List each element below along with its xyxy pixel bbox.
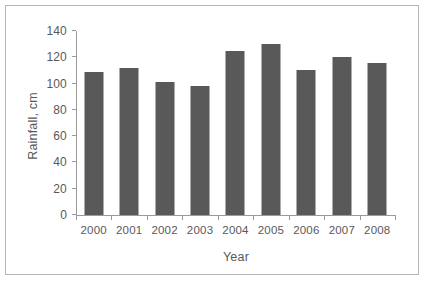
bar-slot — [76, 31, 111, 215]
bar-slot — [360, 31, 395, 215]
x-axis-line — [76, 215, 396, 216]
y-tick-label: 40 — [53, 153, 67, 171]
bar-slot — [182, 31, 217, 215]
x-tick-mark — [324, 216, 325, 220]
chart-frame: 020406080100120140 200020012002200320042… — [5, 5, 419, 275]
x-tick-label: 2004 — [218, 222, 253, 239]
bar-slot — [253, 31, 288, 215]
bar[interactable] — [297, 70, 316, 215]
bar-series — [76, 31, 395, 215]
bar[interactable] — [155, 82, 174, 215]
bar[interactable] — [226, 51, 245, 215]
bar[interactable] — [84, 72, 103, 215]
bar-slot — [218, 31, 253, 215]
x-tick-mark — [253, 216, 254, 220]
x-tick-label: 2008 — [360, 222, 395, 239]
bar-slot — [147, 31, 182, 215]
y-tick-label: 140 — [46, 22, 67, 40]
x-tick-mark — [182, 216, 183, 220]
y-axis-title-label: Rainfall, cm — [26, 92, 40, 160]
x-tick-mark — [395, 216, 396, 220]
bar[interactable] — [332, 57, 351, 215]
x-tick-mark — [289, 216, 290, 220]
x-tick-label: 2002 — [147, 222, 182, 239]
x-axis-title: Year — [76, 250, 396, 264]
bar[interactable] — [368, 63, 387, 215]
x-tick-label: 2000 — [76, 222, 111, 239]
bar[interactable] — [120, 68, 139, 215]
bar[interactable] — [261, 44, 280, 215]
bar-slot — [289, 31, 324, 215]
bar[interactable] — [191, 86, 210, 215]
y-tick-label: 20 — [53, 180, 67, 198]
x-tick-mark — [76, 216, 77, 220]
x-tick-label: 2001 — [111, 222, 146, 239]
x-tick-mark — [147, 216, 148, 220]
y-tick-label: 80 — [53, 101, 67, 119]
x-tick-label: 2006 — [289, 222, 324, 239]
y-tick-label: 0 — [60, 206, 67, 224]
y-axis-title: Rainfall, cm — [24, 51, 42, 201]
y-tick-label: 120 — [46, 48, 67, 66]
x-tick-label: 2007 — [324, 222, 359, 239]
x-tick-mark — [360, 216, 361, 220]
x-tick-mark — [111, 216, 112, 220]
y-tick-label: 100 — [46, 75, 67, 93]
x-tick-label: 2003 — [182, 222, 217, 239]
bar-slot — [324, 31, 359, 215]
bar-slot — [111, 31, 146, 215]
x-tick-label: 2005 — [253, 222, 288, 239]
y-tick-label: 60 — [53, 127, 67, 145]
x-tick-mark — [218, 216, 219, 220]
